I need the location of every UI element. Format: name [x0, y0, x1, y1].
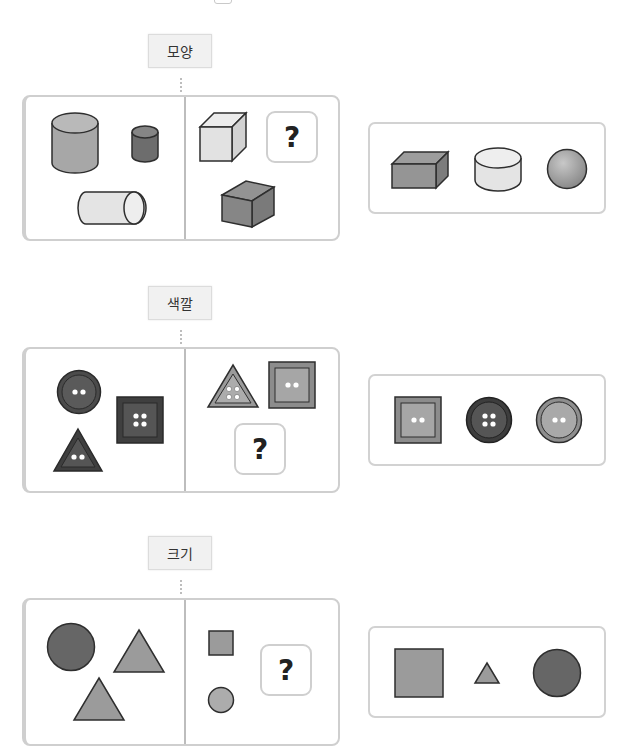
- group-divider: [184, 600, 186, 744]
- sort-box-shape: ?: [22, 95, 340, 241]
- answer-slot[interactable]: ?: [234, 423, 286, 475]
- dotted-connector: [180, 330, 184, 344]
- large-cylinder-icon: [50, 111, 100, 175]
- tag-label: 모양: [167, 41, 193, 61]
- dark-square-button-icon: [116, 396, 164, 444]
- answer-slot[interactable]: ?: [260, 644, 312, 696]
- tag-shape: 모양: [148, 34, 212, 68]
- light-square-button-icon: [268, 361, 316, 409]
- light-cube-icon: [198, 111, 248, 163]
- large-triangle-icon: [112, 628, 166, 674]
- choice-light-square-button-icon[interactable]: [394, 396, 442, 444]
- question-mark: ?: [252, 433, 268, 466]
- dark-triangle-button-icon: [52, 427, 104, 473]
- small-dark-cylinder-icon: [130, 124, 160, 164]
- dark-round-button-icon: [56, 369, 102, 415]
- large-triangle-icon: [72, 676, 126, 722]
- choices-shape: [368, 122, 606, 214]
- tag-label: 크기: [167, 543, 193, 563]
- small-square-icon: [208, 630, 234, 656]
- choice-rectangular-box-icon[interactable]: [390, 150, 450, 190]
- choices-size: [368, 626, 606, 718]
- cropped-top-edge: [0, 0, 632, 4]
- dark-box-icon: [220, 177, 276, 229]
- group-divider: [184, 349, 186, 491]
- tag-size: 크기: [148, 536, 212, 570]
- answer-slot[interactable]: ?: [266, 111, 318, 163]
- dotted-connector: [180, 78, 184, 92]
- choice-short-cylinder-icon[interactable]: [473, 146, 523, 194]
- group-divider: [184, 97, 186, 239]
- choice-sphere-icon[interactable]: [546, 148, 588, 190]
- cropped-fragment: [214, 0, 232, 4]
- large-circle-icon: [46, 622, 96, 672]
- choice-large-circle-icon[interactable]: [532, 648, 582, 698]
- choice-large-square-icon[interactable]: [394, 648, 444, 698]
- choice-light-round-button-icon[interactable]: [535, 396, 583, 444]
- light-triangle-button-icon: [206, 363, 260, 409]
- small-circle-icon: [207, 686, 235, 714]
- sort-box-size: ?: [22, 598, 340, 746]
- choice-dark-round-button-icon[interactable]: [465, 396, 513, 444]
- choices-color: [368, 374, 606, 466]
- lying-cylinder-icon: [76, 190, 148, 226]
- sort-box-color: ?: [22, 347, 340, 493]
- question-mark: ?: [284, 121, 300, 154]
- choice-small-triangle-icon[interactable]: [473, 661, 501, 685]
- dotted-connector: [180, 580, 184, 594]
- question-mark: ?: [278, 654, 294, 687]
- tag-label: 색깔: [167, 293, 193, 313]
- tag-color: 색깔: [148, 286, 212, 320]
